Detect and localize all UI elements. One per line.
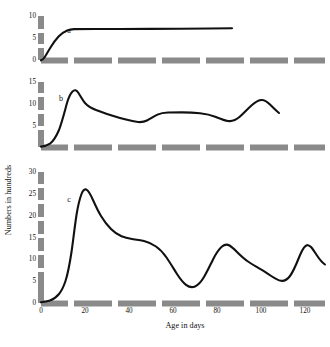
panel-c-ytick-25: 25 <box>29 190 37 198</box>
curve-b <box>41 90 279 146</box>
panel-b-ytick-15: 15 <box>29 78 37 86</box>
panel-a-ytick-0: 0 <box>32 56 36 64</box>
panel-c-ytick-30: 30 <box>29 168 37 176</box>
panel-a-ytick-5: 5 <box>32 34 36 42</box>
x-axis-title: Age in days <box>165 321 204 330</box>
panel-c-y-axis: 30 25 20 15 10 5 0 <box>29 168 41 307</box>
panel-b-y-axis: 15 10 5 <box>29 78 41 147</box>
panel-c-ytick-15: 15 <box>29 234 37 242</box>
panel-c-ytick-0: 0 <box>32 299 36 307</box>
panel-c-ytick-5: 5 <box>32 277 36 285</box>
xtick-20: 20 <box>81 307 89 315</box>
xtick-40: 40 <box>125 307 133 315</box>
xtick-100: 100 <box>256 307 267 315</box>
panel-c-ytick-10: 10 <box>29 255 37 263</box>
curve-c-label: c <box>67 195 71 204</box>
panel-b-ytick-10: 10 <box>29 100 37 108</box>
xtick-120: 120 <box>300 307 311 315</box>
curve-c <box>41 189 325 302</box>
xtick-80: 80 <box>213 307 221 315</box>
figure-container: Numbers in hundreds 10 5 0 a 15 10 5 <box>0 0 330 347</box>
panel-c-x-axis: 0 20 40 60 80 100 120 <box>39 304 325 316</box>
curve-b-label: b <box>59 94 63 103</box>
panel-b: 15 10 5 b <box>29 78 325 147</box>
xtick-0: 0 <box>39 307 43 315</box>
xtick-60: 60 <box>169 307 177 315</box>
multi-panel-line-chart: Numbers in hundreds 10 5 0 a 15 10 5 <box>0 0 330 347</box>
panel-a-y-axis: 10 5 0 <box>29 12 41 64</box>
y-axis-title: Numbers in hundreds <box>4 165 13 236</box>
panel-c-ytick-20: 20 <box>29 212 37 220</box>
panel-a: 10 5 0 a <box>29 12 325 64</box>
panel-c: 30 25 20 15 10 5 0 0 20 40 60 80 100 120… <box>29 168 325 315</box>
curve-a-label: a <box>67 26 71 35</box>
panel-b-ytick-5: 5 <box>32 122 36 130</box>
panel-a-ytick-10: 10 <box>29 12 37 20</box>
